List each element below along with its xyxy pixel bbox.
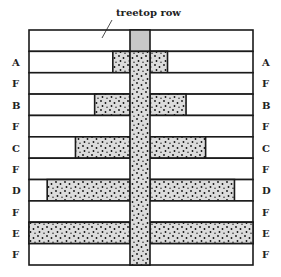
shaded-block-right-C [150, 137, 206, 158]
shaded-block-left-B [95, 94, 130, 115]
row-label-left: F [12, 164, 19, 175]
row-label-right: D [262, 185, 271, 196]
row-label-left: C [12, 143, 20, 154]
shaded-block-right-E [150, 222, 253, 243]
row-label-left: F [12, 207, 19, 218]
row-label-right: F [262, 164, 269, 175]
row-label-right: A [261, 57, 270, 68]
row-label-right: E [262, 228, 270, 239]
row-label-left: F [12, 121, 19, 132]
row-label-right: F [262, 78, 269, 89]
row-label-left: A [11, 57, 20, 68]
shaded-block-right-A [150, 51, 168, 72]
shaded-block-left-A [113, 51, 130, 72]
shaded-block-right-D [150, 180, 234, 201]
trunk-column [130, 51, 150, 265]
row-label-right: C [262, 143, 270, 154]
row-label-right: F [262, 121, 269, 132]
row-label-right: B [262, 100, 270, 111]
row-label-left: D [12, 185, 21, 196]
tree-row-diagram: AAFFBBFFCCFFDDFFEEFF treetop row [0, 0, 281, 277]
row-label-left: B [12, 100, 20, 111]
treetop-cell [130, 30, 150, 51]
row-label-right: F [262, 249, 269, 260]
shaded-block-left-D [47, 180, 130, 201]
shaded-block-left-E [29, 222, 130, 243]
row-label-left: E [12, 228, 20, 239]
row-label-left: F [12, 249, 19, 260]
treetop-row-caption: treetop row [116, 7, 181, 18]
shaded-block-left-C [75, 137, 130, 158]
row-label-right: F [262, 207, 269, 218]
shaded-block-right-B [150, 94, 186, 115]
row-label-left: F [12, 78, 19, 89]
